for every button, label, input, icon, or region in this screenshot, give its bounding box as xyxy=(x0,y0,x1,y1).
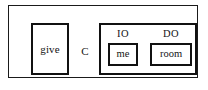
syntax-box-diagram: give C IO me DO room xyxy=(0,0,208,90)
direct-object-box: room xyxy=(150,43,192,66)
verb-label: give xyxy=(40,44,59,55)
object-shell-box: IO me DO room xyxy=(99,23,197,75)
direct-object-group: DO room xyxy=(150,29,192,66)
indirect-object-text: me xyxy=(117,49,130,60)
indirect-object-box: me xyxy=(108,43,138,66)
indirect-object-group: IO me xyxy=(108,29,138,66)
direct-object-text: room xyxy=(160,49,182,60)
indirect-object-label: IO xyxy=(117,29,129,40)
clause-outer-box: give C IO me DO room xyxy=(8,5,198,78)
complementizer-head-label: C xyxy=(77,43,93,59)
direct-object-label: DO xyxy=(163,29,179,40)
verb-box-give: give xyxy=(31,23,69,75)
